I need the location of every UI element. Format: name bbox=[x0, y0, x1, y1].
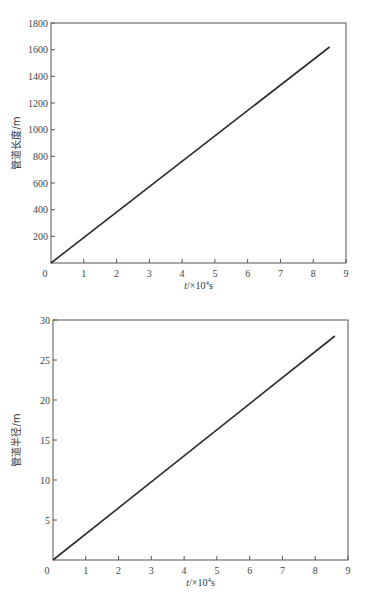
y-axis-title: 管道长度/m bbox=[10, 116, 22, 169]
y-tick-label: 30 bbox=[40, 315, 50, 326]
y-tick-label: 10 bbox=[40, 475, 50, 486]
x-tick-label: 7 bbox=[280, 565, 285, 576]
y-tick-label: 200 bbox=[33, 231, 48, 242]
y-tick-label: 1400 bbox=[28, 71, 48, 82]
x-tick-label: 9 bbox=[346, 565, 351, 576]
y-tick-label: 15 bbox=[40, 435, 50, 446]
x-axis-title: t/×104s bbox=[184, 279, 213, 291]
chart-2: 012345678951015202530t/×104s管道半径/m bbox=[10, 315, 351, 589]
y-tick-label: 600 bbox=[33, 178, 48, 189]
x-tick-label: 3 bbox=[147, 268, 152, 279]
x-tick-label: 8 bbox=[313, 565, 318, 576]
plot-frame bbox=[51, 23, 346, 263]
y-tick-label: 20 bbox=[40, 395, 50, 406]
x-tick-label: 0 bbox=[45, 565, 50, 576]
figure: 0123456789200400600800100012001400160018… bbox=[0, 0, 367, 596]
x-tick-label: 3 bbox=[149, 565, 154, 576]
series-line bbox=[53, 336, 335, 560]
x-tick-label: 2 bbox=[114, 268, 119, 279]
x-tick-label: 1 bbox=[83, 565, 88, 576]
y-tick-label: 1200 bbox=[28, 98, 48, 109]
y-tick-label: 5 bbox=[45, 515, 50, 526]
y-tick-label: 400 bbox=[33, 204, 48, 215]
x-tick-label: 6 bbox=[245, 268, 250, 279]
y-tick-label: 1000 bbox=[28, 124, 48, 135]
x-tick-label: 5 bbox=[212, 268, 217, 279]
x-tick-label: 1 bbox=[81, 268, 86, 279]
x-tick-label: 4 bbox=[180, 268, 185, 279]
chart-1: 0123456789200400600800100012001400160018… bbox=[10, 18, 349, 292]
x-tick-label: 0 bbox=[43, 268, 48, 279]
y-axis-title: 管道半径/m bbox=[10, 413, 22, 466]
x-tick-label: 6 bbox=[247, 565, 252, 576]
series-line bbox=[51, 47, 330, 263]
x-tick-label: 2 bbox=[116, 565, 121, 576]
x-axis-title: t/×104s bbox=[186, 576, 215, 588]
y-tick-label: 25 bbox=[40, 355, 50, 366]
x-tick-label: 8 bbox=[311, 268, 316, 279]
x-tick-label: 5 bbox=[214, 565, 219, 576]
y-tick-label: 1600 bbox=[28, 44, 48, 55]
y-tick-label: 1800 bbox=[28, 18, 48, 29]
y-tick-label: 800 bbox=[33, 151, 48, 162]
x-tick-label: 4 bbox=[182, 565, 187, 576]
x-tick-label: 9 bbox=[344, 268, 349, 279]
x-tick-label: 7 bbox=[278, 268, 283, 279]
